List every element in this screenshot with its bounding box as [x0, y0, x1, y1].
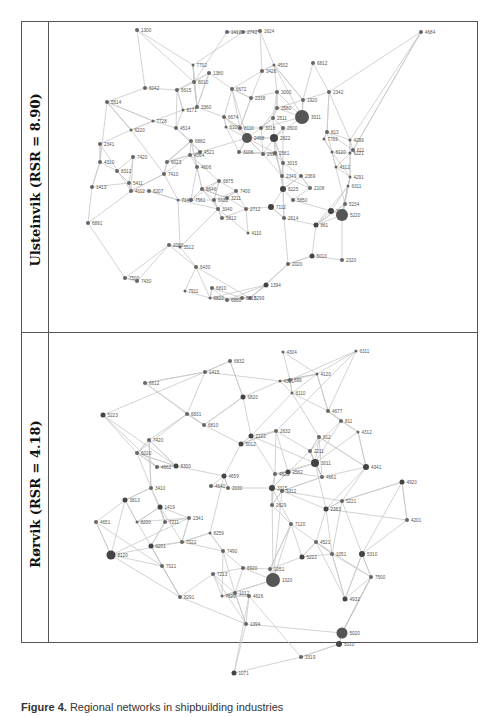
network-edge: [316, 542, 371, 577]
network-edge: [149, 440, 176, 466]
network-node: [331, 151, 334, 154]
network-node: [271, 116, 275, 120]
network-node: [258, 29, 262, 33]
network-edge: [313, 63, 329, 92]
node-label: 6882: [195, 139, 206, 144]
node-label: 2338: [255, 96, 266, 101]
node-label: 7620: [226, 594, 237, 599]
network-node: [234, 189, 238, 193]
network-node: [266, 573, 280, 587]
network-edge: [273, 92, 277, 118]
network-node: [247, 594, 251, 598]
node-label: 2498: [254, 136, 265, 141]
network-edge: [234, 596, 249, 673]
network-node: [203, 370, 207, 374]
network-node: [225, 126, 228, 129]
network-node: [143, 381, 147, 385]
network-node: [225, 196, 229, 200]
node-label: 4312: [362, 430, 373, 435]
node-label: 4341: [371, 465, 382, 470]
network-node: [275, 106, 279, 110]
network-node: [195, 165, 199, 169]
node-label: 3015: [287, 161, 298, 166]
network-edge: [137, 522, 151, 546]
node-label: 5222: [307, 555, 318, 560]
network-graphs: 1300141227421624468477021380342645026812…: [0, 0, 495, 717]
node-label: 7021: [166, 564, 177, 569]
node-label: 4110: [252, 231, 262, 236]
network-edge: [103, 415, 137, 453]
network-edge: [177, 90, 183, 110]
network-node: [268, 204, 274, 210]
network-node: [239, 442, 244, 447]
network-node: [143, 86, 147, 90]
node-label: 6311: [352, 184, 362, 189]
caption-prefix: Figure 4.: [21, 701, 67, 713]
network-edge: [246, 209, 248, 233]
network-node: [299, 655, 303, 659]
network-node: [241, 30, 245, 34]
node-label: 7561: [195, 198, 206, 203]
node-label: 2614: [288, 216, 299, 221]
node-label: 7911: [189, 289, 199, 294]
node-label: 8312: [121, 169, 132, 174]
network-node: [209, 484, 213, 488]
node-label: 4120: [321, 372, 332, 377]
node-label: 7420: [153, 438, 164, 443]
network-node: [212, 198, 216, 202]
node-label: 3011: [311, 115, 321, 120]
network-edge: [137, 245, 169, 281]
network-edge: [193, 65, 197, 107]
network-node: [123, 498, 128, 503]
node-label: 5411: [133, 181, 143, 186]
node-label: 6920: [247, 566, 258, 571]
network-node: [274, 429, 278, 433]
network-node: [355, 350, 358, 353]
node-label: 2383: [331, 507, 342, 512]
network-node: [357, 431, 360, 434]
network-edge: [232, 89, 240, 128]
network-node: [269, 485, 275, 491]
network-edge: [224, 444, 241, 476]
network-node: [135, 28, 139, 32]
node-label: 3360: [201, 105, 212, 110]
node-label: 5223: [108, 413, 119, 418]
network-edge: [316, 542, 345, 599]
network-edge: [197, 167, 202, 189]
node-label: 7022: [186, 540, 197, 545]
node-label: 2222: [256, 434, 267, 439]
network-node: [310, 254, 315, 259]
node-label: 6820: [214, 296, 225, 301]
network-node: [209, 532, 212, 535]
node-label: 6875: [223, 179, 234, 184]
network-node: [225, 30, 229, 34]
network-edge: [272, 488, 273, 580]
node-label: 4299: [354, 138, 365, 143]
network-edge: [88, 191, 131, 223]
network-edge: [312, 225, 316, 256]
network-node: [337, 628, 348, 639]
node-label: 4514: [180, 126, 191, 131]
network-edge: [316, 509, 326, 542]
node-label: 5020: [350, 631, 361, 636]
node-label: 2562: [293, 470, 304, 475]
network-node: [326, 409, 330, 413]
network-node: [314, 223, 319, 228]
node-label: 7728: [157, 119, 168, 124]
network-node: [268, 567, 272, 571]
node-label: 5512: [184, 245, 195, 250]
node-label: 5514: [111, 100, 122, 105]
node-label: 2822: [280, 136, 291, 141]
network-node: [165, 160, 169, 164]
network-node: [340, 258, 344, 262]
network-node: [147, 189, 151, 193]
node-label: 3410: [155, 486, 166, 491]
node-label: 1413: [96, 185, 107, 190]
network-node: [349, 139, 352, 142]
network-node: [242, 133, 252, 143]
network-node: [174, 126, 178, 130]
network-node: [179, 246, 182, 249]
node-label: 4651: [100, 520, 111, 525]
node-label: 1300: [141, 28, 152, 33]
node-label: 4291: [354, 175, 365, 180]
